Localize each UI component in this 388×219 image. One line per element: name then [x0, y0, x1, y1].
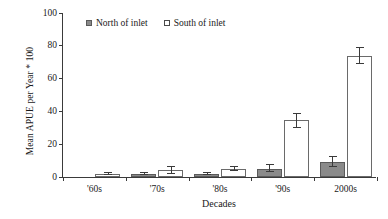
error-bar-cap-top	[266, 164, 274, 165]
x-tick-label-1: '70s	[150, 183, 165, 195]
error-bar-cap-bottom	[167, 173, 175, 174]
error-bar-cap-top	[140, 172, 148, 173]
y-tick-label: 20	[48, 138, 58, 150]
x-tick-label-3: '90s	[275, 183, 290, 195]
bar-south-4	[347, 56, 372, 177]
y-tick-label: 0	[52, 171, 57, 183]
legend-label: North of inlet	[96, 17, 148, 29]
error-bar-cap-bottom	[230, 170, 238, 171]
y-tick-mark	[59, 111, 63, 112]
error-bar-cap-bottom	[266, 171, 274, 172]
error-bar-cap-top	[167, 166, 175, 167]
error-bar-cap-bottom	[356, 63, 364, 64]
x-tick-mark	[251, 177, 252, 181]
y-tick-label: 40	[48, 105, 58, 117]
legend-label: South of inlet	[174, 17, 226, 29]
error-bar-south-2	[234, 166, 235, 172]
error-bar-cap-top	[293, 113, 301, 114]
error-bar-north-2	[207, 172, 208, 174]
chart-legend: North of inletSouth of inlet	[86, 17, 225, 29]
open-square-icon	[164, 20, 170, 26]
y-tick-label: 60	[48, 72, 58, 84]
error-bar-north-3	[269, 164, 270, 172]
y-tick-label: 100	[43, 7, 57, 19]
y-tick-mark	[59, 45, 63, 46]
error-bar-cap-bottom	[293, 127, 301, 128]
y-tick-mark	[59, 78, 63, 79]
error-bar-cap-bottom	[203, 174, 211, 175]
legend-item-north: North of inlet	[86, 17, 148, 29]
error-bar-south-4	[359, 47, 360, 63]
filled-square-icon	[86, 20, 92, 26]
error-bar-south-1	[171, 166, 172, 173]
error-bar-cap-top	[329, 156, 337, 157]
y-tick-mark	[59, 144, 63, 145]
x-tick-label-4: 2000s	[334, 183, 357, 195]
error-bar-south-3	[296, 113, 297, 128]
x-axis-title: Decades	[62, 198, 376, 209]
plot-area: 020406080100 '60s'70s'80s'90s2000s	[62, 14, 376, 178]
bar-chart: Mean APUE per Year * 100 020406080100 '6…	[0, 0, 388, 219]
y-tick-mark	[59, 13, 63, 14]
x-tick-label-2: '80s	[213, 183, 228, 195]
error-bar-cap-top	[230, 166, 238, 167]
error-bar-cap-bottom	[104, 174, 112, 175]
error-bar-south-0	[108, 172, 109, 174]
error-bar-north-1	[144, 172, 145, 175]
error-bar-cap-bottom	[140, 174, 148, 175]
error-bar-north-4	[332, 156, 333, 167]
x-tick-mark	[377, 177, 378, 181]
error-bar-cap-top	[356, 47, 364, 48]
bar-south-3	[284, 120, 309, 177]
x-tick-mark	[63, 177, 64, 181]
y-axis-title: Mean APUE per Year * 100	[25, 16, 35, 186]
x-tick-label-0: '60s	[87, 183, 102, 195]
x-tick-mark	[189, 177, 190, 181]
x-tick-mark	[126, 177, 127, 181]
error-bar-cap-bottom	[329, 166, 337, 167]
legend-item-south: South of inlet	[164, 17, 226, 29]
x-tick-mark	[314, 177, 315, 181]
y-tick-label: 80	[48, 39, 58, 51]
